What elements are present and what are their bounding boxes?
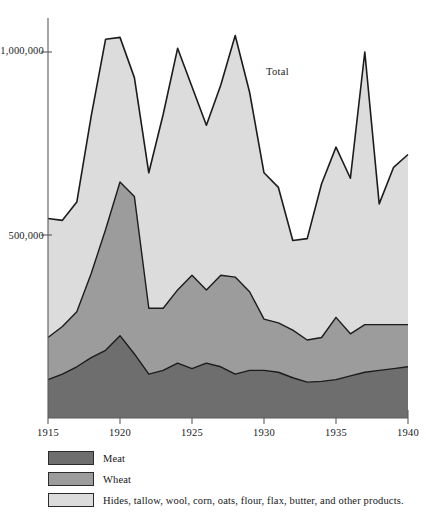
legend-label: Meat xyxy=(103,453,125,464)
area-series-group xyxy=(48,36,408,418)
stacked-area-plot xyxy=(0,0,426,445)
total-annotation-label: Total xyxy=(266,66,289,77)
legend-item-hides: Hides, tallow, wool, corn, oats, flour, … xyxy=(48,491,426,509)
x-axis-tick-label-1940: 1940 xyxy=(388,427,426,438)
y-axis-tick-label-500000: 500,000 xyxy=(0,230,44,241)
chart-container: 1,000,000 500,000 1915192019251930193519… xyxy=(0,0,426,513)
x-axis-tick-label-1920: 1920 xyxy=(100,427,140,438)
legend-item-wheat: Wheat xyxy=(48,470,426,488)
legend-swatch-icon xyxy=(48,493,94,507)
y-axis-tick-label-1000000: 1,000,000 xyxy=(0,45,44,56)
x-axis-tick-label-1935: 1935 xyxy=(316,427,356,438)
chart-legend: MeatWheatHides, tallow, wool, corn, oats… xyxy=(48,449,426,512)
x-axis-tick-label-1930: 1930 xyxy=(244,427,284,438)
legend-label: Hides, tallow, wool, corn, oats, flour, … xyxy=(103,495,404,506)
legend-item-meat: Meat xyxy=(48,449,426,467)
legend-swatch-icon xyxy=(48,451,94,465)
legend-swatch-icon xyxy=(48,472,94,486)
x-axis-tick-label-1925: 1925 xyxy=(172,427,212,438)
x-axis-tick-label-1915: 1915 xyxy=(28,427,68,438)
legend-label: Wheat xyxy=(103,474,131,485)
